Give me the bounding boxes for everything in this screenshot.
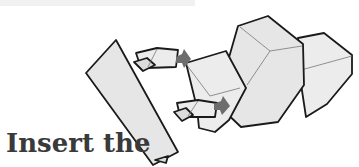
diagram-stage: Insert the — [0, 0, 359, 167]
instruction-caption: Insert the — [6, 128, 150, 158]
upper-tab — [134, 48, 178, 71]
back-box — [298, 33, 352, 117]
lower-tab — [174, 100, 217, 121]
